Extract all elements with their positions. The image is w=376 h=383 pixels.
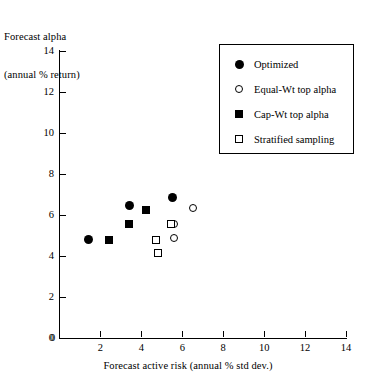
legend-label: Equal-Wt top alpha	[254, 84, 336, 95]
legend-label: Optimized	[254, 59, 298, 70]
x-tick-mark	[141, 331, 142, 337]
y-axis-title-line2: (annual % return)	[4, 69, 80, 82]
y-tick-label: 4	[28, 251, 54, 262]
y-tick-label: 14	[28, 46, 54, 57]
data-point-open-circle	[170, 234, 178, 242]
y-tick-mark	[60, 174, 66, 175]
y-axis-title-line1: Forecast alpha	[4, 31, 80, 44]
y-tick-label: 6	[28, 210, 54, 221]
legend-marker-open-square-icon	[232, 135, 246, 143]
scatter-chart: Forecast alpha (annual % return) 0246810…	[0, 0, 376, 383]
y-tick-mark	[60, 133, 66, 134]
legend-label: Stratified sampling	[254, 134, 334, 145]
legend-marker-filled-square-icon	[232, 110, 246, 118]
x-tick-mark	[305, 331, 306, 337]
data-point-filled-circle	[168, 193, 177, 202]
x-tick-mark	[182, 331, 183, 337]
x-tick-label: 10	[251, 343, 277, 354]
x-tick-mark	[223, 331, 224, 337]
x-tick-label: 6	[169, 343, 195, 354]
x-tick-mark	[100, 331, 101, 337]
data-point-open-square	[154, 249, 162, 257]
x-axis-title: Forecast active risk (annual % std dev.)	[0, 360, 376, 371]
data-point-open-square	[152, 236, 160, 244]
data-point-filled-circle	[125, 201, 134, 210]
x-tick-label: 12	[292, 343, 318, 354]
legend-item: Cap-Wt top alpha	[232, 107, 329, 121]
y-tick-label: 12	[28, 87, 54, 98]
x-tick-mark	[264, 331, 265, 337]
y-tick-mark	[60, 215, 66, 216]
x-tick-label: 8	[210, 343, 236, 354]
legend-marker-filled-circle-icon	[232, 60, 246, 69]
y-tick-label: 10	[28, 128, 54, 139]
data-point-filled-square	[125, 220, 133, 228]
legend-item: Equal-Wt top alpha	[232, 82, 336, 96]
data-point-filled-square	[105, 236, 113, 244]
x-tick-label: 2	[87, 343, 113, 354]
legend: OptimizedEqual-Wt top alphaCap-Wt top al…	[219, 44, 354, 154]
x-axis-line	[59, 338, 347, 339]
y-tick-label: 2	[28, 292, 54, 303]
legend-label: Cap-Wt top alpha	[254, 109, 329, 120]
legend-marker-open-circle-icon	[232, 85, 246, 93]
y-tick-mark	[60, 297, 66, 298]
data-point-filled-square	[142, 206, 150, 214]
data-point-open-circle	[189, 204, 197, 212]
data-point-filled-circle	[84, 235, 93, 244]
legend-item: Stratified sampling	[232, 132, 334, 146]
x-tick-label: 0	[40, 333, 66, 344]
y-tick-mark	[60, 92, 66, 93]
data-point-open-square	[167, 220, 175, 228]
legend-item: Optimized	[232, 57, 298, 71]
x-tick-label: 14	[333, 343, 359, 354]
y-tick-mark	[60, 51, 66, 52]
y-tick-mark	[60, 256, 66, 257]
x-tick-label: 4	[128, 343, 154, 354]
x-tick-mark	[346, 331, 347, 337]
y-tick-label: 8	[28, 169, 54, 180]
